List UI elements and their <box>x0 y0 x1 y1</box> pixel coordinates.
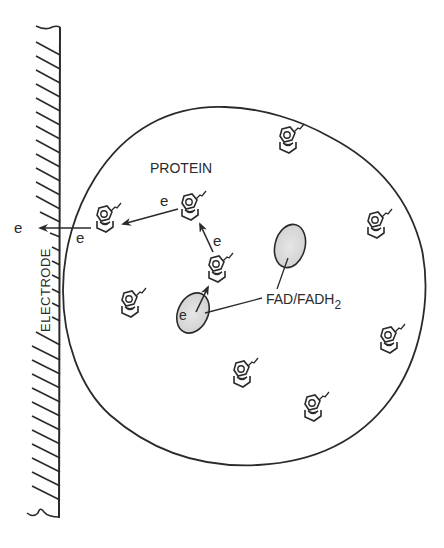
protein-label: PROTEIN <box>150 160 212 176</box>
fad-label-main: FAD/FADH <box>266 291 334 307</box>
fad-cofactor-lower <box>171 288 216 339</box>
electron-label-electrode-side: e <box>76 229 84 246</box>
flavin-molecule-icon <box>122 288 146 317</box>
fad-leader-line-lower <box>205 298 262 313</box>
electron-transfer-arrow <box>123 209 178 224</box>
flavin-molecule-icon <box>97 203 121 232</box>
flavin-molecule-icon <box>234 358 258 387</box>
electron-label-transfer-2: e <box>213 232 221 249</box>
electron-label-transfer-1: e <box>160 192 168 209</box>
electron-transfer-diagram: ELECTRODE e e PROTEIN e e e FAD/FADH2 <box>0 0 444 548</box>
flavin-molecule-icon <box>368 209 392 238</box>
flavin-molecule-icon <box>280 124 304 153</box>
electrode-label: ELECTRODE <box>38 248 53 332</box>
fad-label: FAD/FADH2 <box>266 291 341 312</box>
fad-label-subscript: 2 <box>334 298 341 312</box>
flavin-molecule-icon <box>209 253 233 282</box>
flavin-molecule-icon <box>381 324 405 353</box>
protein-outline <box>63 107 425 465</box>
electron-label-outside: e <box>14 219 22 236</box>
electron-transfer-arrow <box>200 224 213 252</box>
fad-cofactor-upper <box>270 221 310 271</box>
electron-label-from-fad: e <box>179 307 187 323</box>
electrode: ELECTRODE <box>27 26 60 518</box>
flavin-molecule-icon <box>305 392 329 421</box>
flavin-molecule-icon <box>182 191 206 220</box>
